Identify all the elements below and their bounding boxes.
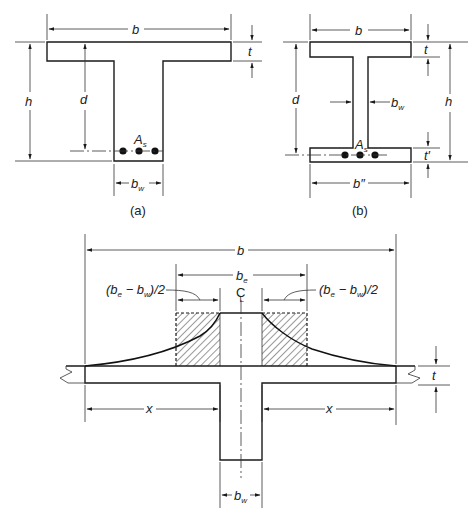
label-b: b (355, 23, 362, 38)
break-line-right-icon (396, 366, 420, 383)
label-bw: bw (131, 176, 145, 193)
label-as: As (133, 132, 147, 149)
figure-c-effective-width: CL b be (be − bw)/2 (be − bw)/2 t (60, 234, 450, 508)
label-as: As (354, 137, 368, 154)
label-h: h (25, 94, 32, 109)
label-bw: bw (234, 488, 248, 505)
label-t-prime: t′ (424, 148, 431, 163)
label-b-double-prime: b″ (353, 176, 365, 191)
label-x-left: x (145, 401, 153, 416)
hatched-region-left (176, 313, 220, 366)
caption-b: (b) (352, 203, 368, 218)
label-d: d (80, 92, 88, 107)
slab-web-outline (85, 366, 396, 460)
figure-a-t-section: b t h d As bw (a) (15, 14, 262, 218)
label-h: h (445, 94, 452, 109)
label-b-total: b (237, 243, 244, 258)
label-overhang-right: (be − bw)/2 (319, 282, 379, 299)
label-t-slab: t (432, 368, 437, 383)
label-b: b (132, 22, 139, 37)
break-line-left-icon (60, 366, 85, 383)
figure-b-i-section: b t h d bw As t′ b″ (b) (283, 14, 468, 218)
label-x-right: x (325, 401, 333, 416)
centerline-symbol: CL (236, 285, 245, 304)
label-bw: bw (391, 95, 405, 112)
t-beam-diagram: b t h d As bw (a) (0, 0, 476, 522)
caption-a: (a) (130, 203, 146, 218)
label-d: d (292, 92, 300, 107)
label-overhang-left: (be − bw)/2 (106, 282, 166, 299)
label-t: t (424, 42, 429, 57)
label-t: t (248, 44, 253, 59)
label-be: be (236, 268, 248, 285)
